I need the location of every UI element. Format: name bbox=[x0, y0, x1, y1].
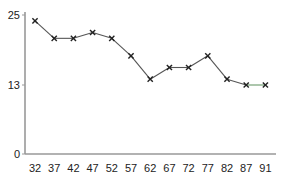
x-tick-label: 32 bbox=[29, 162, 41, 174]
line-segment bbox=[112, 38, 131, 56]
x-marker-icon bbox=[128, 53, 133, 58]
x-marker-icon bbox=[148, 77, 153, 82]
series-line bbox=[35, 21, 265, 85]
line-segment bbox=[150, 68, 169, 80]
x-tick-label: 87 bbox=[240, 162, 252, 174]
x-tick-label: 82 bbox=[221, 162, 233, 174]
x-tick-label: 47 bbox=[86, 162, 98, 174]
line-segment bbox=[131, 56, 150, 79]
line-chart: 01325 32374247525762677277828791 bbox=[0, 0, 282, 180]
y-tick-label: 13 bbox=[8, 79, 20, 91]
line-segment bbox=[208, 56, 227, 79]
data-markers bbox=[32, 18, 268, 87]
line-segment bbox=[189, 56, 208, 68]
y-tick-label: 0 bbox=[14, 148, 20, 160]
x-tick-label: 77 bbox=[202, 162, 214, 174]
line-segment bbox=[35, 21, 54, 38]
x-tick-label: 52 bbox=[106, 162, 118, 174]
x-tick-label: 62 bbox=[144, 162, 156, 174]
x-tick-label: 37 bbox=[48, 162, 60, 174]
x-axis-labels: 32374247525762677277828791 bbox=[29, 162, 272, 174]
x-tick-label: 57 bbox=[125, 162, 137, 174]
x-tick-label: 67 bbox=[163, 162, 175, 174]
y-tick-label: 25 bbox=[8, 9, 20, 21]
x-tick-label: 91 bbox=[259, 162, 271, 174]
x-tick-label: 42 bbox=[67, 162, 79, 174]
x-marker-icon bbox=[205, 53, 210, 58]
x-marker-icon bbox=[32, 18, 37, 23]
line-segment bbox=[227, 79, 246, 85]
y-axis-labels: 01325 bbox=[8, 9, 20, 160]
line-segment bbox=[93, 33, 112, 39]
line-segment bbox=[73, 33, 92, 39]
x-tick-label: 72 bbox=[182, 162, 194, 174]
